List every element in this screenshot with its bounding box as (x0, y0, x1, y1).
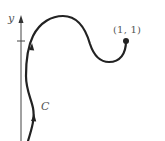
endpoint-label: (1, 1) (113, 25, 141, 35)
y-axis (17, 15, 25, 141)
curve-diagram: y (1, 1) C (0, 0, 165, 141)
endpoint-dot (123, 38, 129, 44)
diagram-canvas (0, 0, 165, 141)
curve-label: C (41, 101, 49, 112)
curve-path (26, 16, 126, 141)
y-axis-arrowhead-icon (19, 15, 24, 23)
y-axis-label: y (8, 13, 14, 24)
